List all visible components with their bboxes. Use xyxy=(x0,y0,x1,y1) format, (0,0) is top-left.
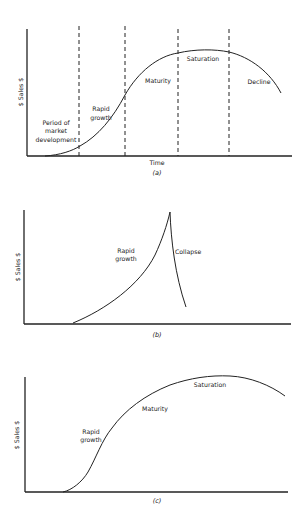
label-rapid-line1: Rapid xyxy=(82,428,100,436)
product-life-cycle-diagrams: $ Sales $ Period of market development R… xyxy=(0,0,305,519)
caption-b: (b) xyxy=(152,331,161,339)
y-axis-label: $ Sales $ xyxy=(13,421,20,449)
panel-b: $ Sales $ Rapid growth Collapse (b) xyxy=(14,210,291,339)
label-rapid-line2: growth xyxy=(80,436,102,444)
y-axis-label: $ Sales $ xyxy=(17,78,24,106)
x-axis-label: Time xyxy=(148,159,164,166)
label-saturation: Saturation xyxy=(194,381,226,388)
rapid-growth-curve xyxy=(73,212,170,323)
panel-a: $ Sales $ Period of market development R… xyxy=(17,26,292,177)
label-maturity: Maturity xyxy=(142,405,168,413)
label-maturity: Maturity xyxy=(145,77,171,85)
label-saturation: Saturation xyxy=(187,55,219,62)
label-rapid-line1: Rapid xyxy=(92,105,110,113)
label-rapid-line1: Rapid xyxy=(117,247,135,255)
label-rapid-line2: growth xyxy=(90,114,112,122)
label-rapid-line2: growth xyxy=(115,255,137,263)
label-period-line3: development xyxy=(36,136,77,144)
caption-c: (c) xyxy=(153,497,162,505)
label-period-line1: Period of xyxy=(42,119,70,126)
panel-c: $ Sales $ Rapid growth Maturity Saturati… xyxy=(13,376,288,505)
collapse-curve xyxy=(170,212,186,307)
label-collapse: Collapse xyxy=(175,248,201,256)
label-period-line2: market xyxy=(45,127,68,134)
y-axis-label: $ Sales $ xyxy=(14,253,21,281)
caption-a: (a) xyxy=(152,169,161,177)
label-decline: Decline xyxy=(247,78,270,85)
sales-curve xyxy=(45,50,281,156)
